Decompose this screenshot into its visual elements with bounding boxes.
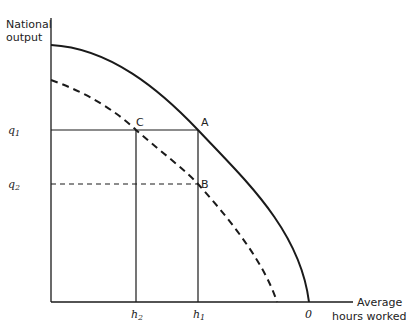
h1-label: h1 [193, 308, 205, 322]
x-axis-label-2: hours worked [332, 310, 406, 323]
diagram-canvas: National output Average hours worked q1 … [0, 0, 417, 334]
h2-label: h2 [131, 308, 143, 322]
point-c-label: C [136, 116, 144, 129]
x-axis-label: Average [357, 296, 402, 309]
dashed-frontier-curve [51, 80, 277, 302]
point-b-label: B [201, 178, 209, 191]
solid-frontier-curve [51, 45, 309, 302]
y-axis-label-2: output [6, 31, 43, 44]
y-axis-label: National [6, 18, 52, 31]
q2-label: q2 [8, 178, 20, 192]
zero-label: 0 [305, 308, 312, 321]
point-a-label: A [201, 116, 209, 129]
q1-label: q1 [8, 124, 20, 138]
